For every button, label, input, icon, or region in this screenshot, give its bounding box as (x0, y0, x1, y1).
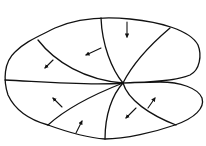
arrow-lower-left (53, 98, 62, 107)
arrow-bottom-right-outer (148, 98, 155, 108)
arrow-bottom-right-inner (126, 108, 136, 118)
divider-bottom (105, 83, 123, 139)
leaf-outline (5, 18, 202, 139)
arrow-upper-left-inner (86, 48, 101, 55)
leaf-svg (0, 0, 206, 146)
divider-top (101, 18, 123, 83)
arrow-upper-left-outer (45, 60, 53, 68)
divider-lower-right (123, 83, 176, 125)
divider-top-right (123, 28, 170, 83)
leaf-diagram (0, 0, 206, 146)
arrow-bottom-left (76, 121, 82, 133)
